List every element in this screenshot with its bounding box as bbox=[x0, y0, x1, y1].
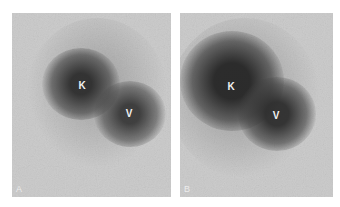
label-v: V bbox=[126, 108, 133, 119]
scan-panel-a: K V A bbox=[12, 13, 171, 197]
panel-label-a: A bbox=[16, 184, 22, 194]
label-k: K bbox=[78, 80, 85, 91]
scan-panel-b: K V B bbox=[180, 13, 333, 197]
panel-label-b: B bbox=[184, 184, 190, 194]
label-v: V bbox=[273, 110, 280, 121]
label-k: K bbox=[227, 81, 234, 92]
